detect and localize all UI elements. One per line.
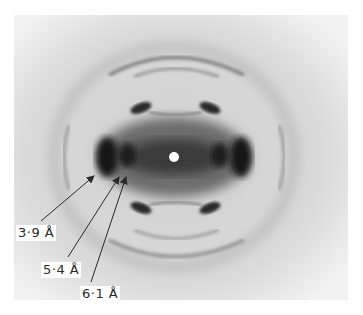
label-5-4-angstrom: 5·4 Å: [41, 262, 81, 278]
arrow-3-9: [41, 176, 94, 221]
label-6-1-angstrom: 6·1 Å: [80, 286, 120, 302]
label-3-9-angstrom: 3·9 Å: [16, 225, 56, 241]
arrow-5-4: [68, 177, 119, 257]
